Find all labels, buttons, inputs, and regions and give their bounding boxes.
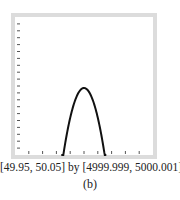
panel-label: (b) <box>0 177 180 192</box>
x-axis-ticks <box>29 151 139 154</box>
parabola-curve <box>61 88 106 155</box>
y-axis-ticks <box>17 24 20 148</box>
viewing-window-caption: [49.95, 50.05] by [4999.999, 5000.001] <box>0 161 180 173</box>
